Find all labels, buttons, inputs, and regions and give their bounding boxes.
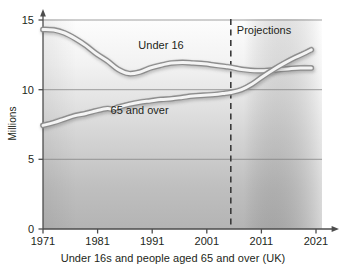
y-axis-title: Millions <box>7 94 18 154</box>
x-tick-label-2001: 2001 <box>195 235 219 247</box>
projections-label: Projections <box>237 24 292 36</box>
x-tick-label-1971: 1971 <box>31 235 55 247</box>
x-tick-label-2011: 2011 <box>250 235 274 247</box>
x-tick-label-2021: 2021 <box>304 235 328 247</box>
y-axis-arrow-icon <box>40 9 46 16</box>
y-tick-label-10: 10 <box>22 84 34 96</box>
y-tick-label-15: 15 <box>22 14 34 26</box>
chart-figure: 15 10 5 0 1971 1981 1991 2001 2011 2021 <box>0 0 346 274</box>
y-axis: 15 10 5 0 <box>22 9 46 235</box>
x-axis-arrow-icon <box>332 226 339 232</box>
x-tick-label-1981: 1981 <box>85 235 109 247</box>
chart-caption: Under 16s and people aged 65 and over (U… <box>0 252 346 264</box>
series-label-65-and-over: 65 and over <box>111 104 169 116</box>
series-label-under-16: Under 16 <box>138 39 183 51</box>
x-tick-label-1991: 1991 <box>140 235 164 247</box>
y-tick-label-5: 5 <box>28 153 34 165</box>
y-tick-label-0: 0 <box>28 223 34 235</box>
line-chart: 15 10 5 0 1971 1981 1991 2001 2011 2021 <box>0 0 346 274</box>
x-axis-ticks <box>43 229 316 234</box>
x-axis: 1971 1981 1991 2001 2011 2021 <box>31 226 339 247</box>
